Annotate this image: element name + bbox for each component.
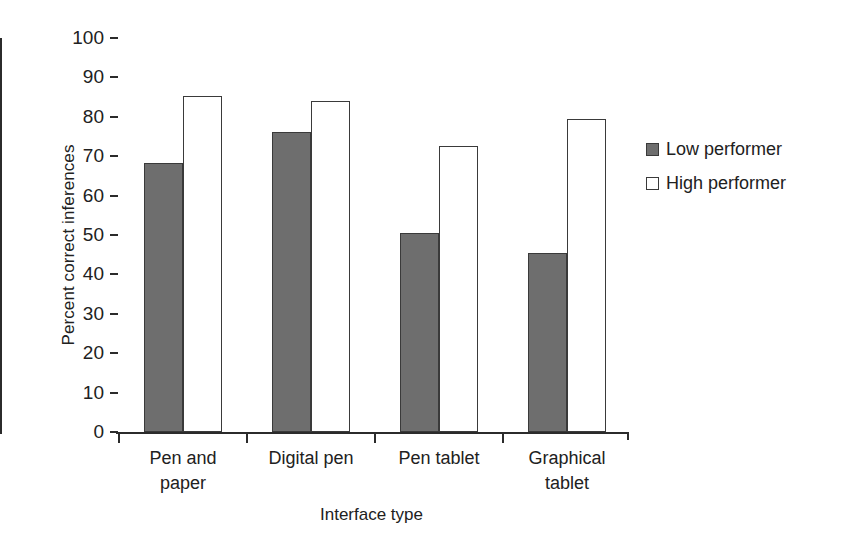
legend-label-high-performer: High performer: [666, 173, 786, 194]
bar-low-performer: [272, 132, 311, 432]
x-axis-category-label-line: tablet: [492, 471, 642, 496]
bars-layer: [0, 0, 847, 432]
bar-high-performer: [311, 101, 350, 432]
x-axis-category-label-line: Graphical: [492, 446, 642, 471]
bar-high-performer: [439, 146, 478, 432]
x-axis-tick: [246, 434, 248, 443]
legend-label-low-performer: Low performer: [666, 139, 782, 160]
bar-low-performer: [528, 253, 567, 432]
x-axis-tick: [502, 434, 504, 443]
legend-item-low-performer: Low performer: [646, 132, 846, 166]
x-axis-tick: [374, 434, 376, 443]
x-axis-line: [116, 432, 629, 434]
x-axis-category-label: Graphicaltablet: [492, 446, 642, 496]
legend-item-high-performer: High performer: [646, 166, 846, 200]
bar-high-performer: [567, 119, 606, 432]
bar-low-performer: [144, 163, 183, 432]
legend-swatch-high-performer-icon: [646, 177, 659, 190]
x-axis-tick: [118, 434, 120, 443]
bar-chart-figure: Percent correct inferences 0102030405060…: [0, 0, 847, 559]
legend-swatch-low-performer-icon: [646, 143, 659, 156]
x-axis-title: Interface type: [116, 505, 627, 525]
legend: Low performer High performer: [646, 132, 846, 200]
x-axis-end-tick: [627, 432, 629, 440]
bar-high-performer: [183, 96, 222, 432]
x-axis-category-label-line: paper: [108, 471, 258, 496]
bar-low-performer: [400, 233, 439, 432]
